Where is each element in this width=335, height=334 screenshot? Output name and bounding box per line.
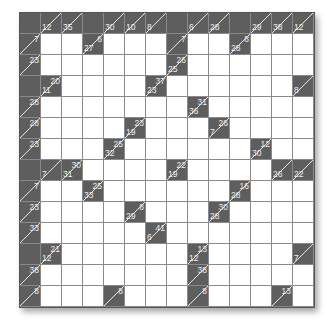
entry-cell[interactable] bbox=[146, 139, 167, 160]
entry-cell[interactable] bbox=[167, 76, 188, 97]
entry-cell[interactable] bbox=[62, 286, 83, 307]
entry-cell[interactable] bbox=[293, 181, 314, 202]
entry-cell[interactable] bbox=[251, 202, 272, 223]
entry-cell[interactable] bbox=[104, 34, 125, 55]
entry-cell[interactable] bbox=[293, 34, 314, 55]
entry-cell[interactable] bbox=[104, 244, 125, 265]
entry-cell[interactable] bbox=[272, 55, 293, 76]
entry-cell[interactable] bbox=[293, 286, 314, 307]
entry-cell[interactable] bbox=[209, 181, 230, 202]
entry-cell[interactable] bbox=[293, 202, 314, 223]
entry-cell[interactable] bbox=[41, 139, 62, 160]
entry-cell[interactable] bbox=[230, 97, 251, 118]
entry-cell[interactable] bbox=[125, 181, 146, 202]
entry-cell[interactable] bbox=[230, 244, 251, 265]
entry-cell[interactable] bbox=[230, 160, 251, 181]
entry-cell[interactable] bbox=[62, 202, 83, 223]
entry-cell[interactable] bbox=[146, 244, 167, 265]
entry-cell[interactable] bbox=[230, 265, 251, 286]
entry-cell[interactable] bbox=[230, 118, 251, 139]
entry-cell[interactable] bbox=[230, 223, 251, 244]
entry-cell[interactable] bbox=[41, 202, 62, 223]
entry-cell[interactable] bbox=[83, 265, 104, 286]
entry-cell[interactable] bbox=[125, 55, 146, 76]
entry-cell[interactable] bbox=[83, 202, 104, 223]
entry-cell[interactable] bbox=[104, 223, 125, 244]
entry-cell[interactable] bbox=[83, 244, 104, 265]
entry-cell[interactable] bbox=[104, 160, 125, 181]
entry-cell[interactable] bbox=[125, 286, 146, 307]
entry-cell[interactable] bbox=[146, 181, 167, 202]
entry-cell[interactable] bbox=[293, 265, 314, 286]
entry-cell[interactable] bbox=[41, 34, 62, 55]
entry-cell[interactable] bbox=[293, 97, 314, 118]
entry-cell[interactable] bbox=[188, 34, 209, 55]
entry-cell[interactable] bbox=[41, 286, 62, 307]
entry-cell[interactable] bbox=[251, 76, 272, 97]
entry-cell[interactable] bbox=[272, 118, 293, 139]
entry-cell[interactable] bbox=[209, 139, 230, 160]
entry-cell[interactable] bbox=[41, 265, 62, 286]
entry-cell[interactable] bbox=[125, 160, 146, 181]
entry-cell[interactable] bbox=[104, 97, 125, 118]
entry-cell[interactable] bbox=[251, 118, 272, 139]
entry-cell[interactable] bbox=[251, 34, 272, 55]
entry-cell[interactable] bbox=[104, 265, 125, 286]
entry-cell[interactable] bbox=[209, 76, 230, 97]
entry-cell[interactable] bbox=[188, 139, 209, 160]
entry-cell[interactable] bbox=[230, 286, 251, 307]
entry-cell[interactable] bbox=[41, 97, 62, 118]
entry-cell[interactable] bbox=[146, 97, 167, 118]
entry-cell[interactable] bbox=[62, 181, 83, 202]
entry-cell[interactable] bbox=[41, 55, 62, 76]
entry-cell[interactable] bbox=[62, 265, 83, 286]
entry-cell[interactable] bbox=[41, 118, 62, 139]
entry-cell[interactable] bbox=[251, 55, 272, 76]
entry-cell[interactable] bbox=[146, 265, 167, 286]
entry-cell[interactable] bbox=[167, 223, 188, 244]
entry-cell[interactable] bbox=[62, 34, 83, 55]
entry-cell[interactable] bbox=[125, 76, 146, 97]
entry-cell[interactable] bbox=[188, 76, 209, 97]
entry-cell[interactable] bbox=[230, 55, 251, 76]
entry-cell[interactable] bbox=[272, 34, 293, 55]
entry-cell[interactable] bbox=[146, 286, 167, 307]
entry-cell[interactable] bbox=[83, 223, 104, 244]
entry-cell[interactable] bbox=[83, 118, 104, 139]
entry-cell[interactable] bbox=[188, 118, 209, 139]
entry-cell[interactable] bbox=[209, 34, 230, 55]
entry-cell[interactable] bbox=[293, 118, 314, 139]
entry-cell[interactable] bbox=[188, 223, 209, 244]
entry-cell[interactable] bbox=[104, 55, 125, 76]
entry-cell[interactable] bbox=[146, 202, 167, 223]
entry-cell[interactable] bbox=[209, 160, 230, 181]
entry-cell[interactable] bbox=[272, 181, 293, 202]
entry-cell[interactable] bbox=[83, 76, 104, 97]
entry-cell[interactable] bbox=[125, 97, 146, 118]
entry-cell[interactable] bbox=[293, 55, 314, 76]
entry-cell[interactable] bbox=[167, 97, 188, 118]
entry-cell[interactable] bbox=[41, 223, 62, 244]
entry-cell[interactable] bbox=[188, 160, 209, 181]
entry-cell[interactable] bbox=[41, 181, 62, 202]
entry-cell[interactable] bbox=[104, 202, 125, 223]
entry-cell[interactable] bbox=[272, 139, 293, 160]
entry-cell[interactable] bbox=[167, 139, 188, 160]
entry-cell[interactable] bbox=[104, 76, 125, 97]
entry-cell[interactable] bbox=[272, 265, 293, 286]
entry-cell[interactable] bbox=[83, 160, 104, 181]
entry-cell[interactable] bbox=[167, 202, 188, 223]
entry-cell[interactable] bbox=[104, 118, 125, 139]
entry-cell[interactable] bbox=[62, 55, 83, 76]
entry-cell[interactable] bbox=[251, 160, 272, 181]
entry-cell[interactable] bbox=[251, 97, 272, 118]
entry-cell[interactable] bbox=[293, 139, 314, 160]
entry-cell[interactable] bbox=[167, 118, 188, 139]
entry-cell[interactable] bbox=[83, 286, 104, 307]
entry-cell[interactable] bbox=[251, 223, 272, 244]
entry-cell[interactable] bbox=[188, 181, 209, 202]
entry-cell[interactable] bbox=[167, 286, 188, 307]
entry-cell[interactable] bbox=[272, 76, 293, 97]
entry-cell[interactable] bbox=[293, 223, 314, 244]
entry-cell[interactable] bbox=[251, 286, 272, 307]
